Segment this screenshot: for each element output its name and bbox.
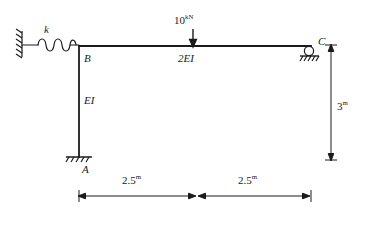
dimension-line-span-left — [78, 190, 196, 202]
column-rigidity-label: EI — [84, 95, 94, 106]
dimension-unit-span-left: m — [136, 173, 141, 180]
dimension-label-height: 3m — [337, 100, 348, 112]
point-load-arrow-icon — [190, 29, 197, 47]
point-load-unit: kN — [185, 13, 193, 20]
dimension-unit-span-right: m — [252, 173, 257, 180]
dimension-value-span-right: 2.5 — [238, 174, 252, 186]
dimension-line-span-right — [198, 190, 311, 202]
wall-support-icon — [16, 29, 22, 58]
structural-frame-diagram: k B EI 2EI A C 10kN 2.5m 2.5m 3m — [0, 0, 368, 229]
roller-support-c-icon — [300, 46, 319, 61]
support-a-label: A — [82, 164, 89, 175]
base-support-a-icon — [66, 157, 92, 162]
dimension-value-span-left: 2.5 — [122, 174, 136, 186]
dimension-label-span-left: 2.5m — [122, 174, 141, 186]
point-load-magnitude: 10 — [174, 14, 185, 26]
dimension-line-height — [325, 44, 337, 161]
joint-b-label: B — [84, 53, 91, 64]
support-c-label: C — [318, 36, 325, 47]
diagram-canvas — [0, 0, 368, 229]
spring-stiffness-label: k — [44, 24, 49, 35]
point-load-label: 10kN — [174, 14, 193, 26]
spring-icon — [22, 39, 79, 51]
dimension-label-span-right: 2.5m — [238, 174, 257, 186]
dimension-unit-height: m — [343, 99, 348, 106]
beam-rigidity-label: 2EI — [178, 53, 194, 64]
